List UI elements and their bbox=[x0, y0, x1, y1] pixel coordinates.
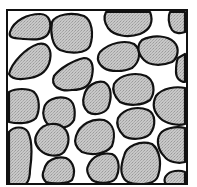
grain bbox=[121, 143, 160, 184]
grain bbox=[117, 108, 154, 139]
grain-packing-diagram bbox=[0, 0, 197, 187]
grain bbox=[9, 89, 39, 123]
grain bbox=[165, 171, 186, 184]
grain bbox=[9, 128, 31, 185]
grain bbox=[105, 12, 152, 36]
grain bbox=[113, 74, 153, 105]
grain bbox=[169, 12, 185, 33]
grain bbox=[176, 54, 185, 82]
grain bbox=[138, 36, 177, 64]
grain bbox=[51, 14, 92, 53]
grain bbox=[35, 124, 68, 156]
